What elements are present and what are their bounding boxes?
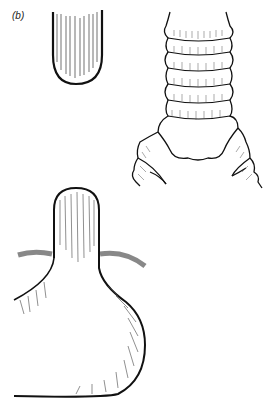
bulb-flask [14, 188, 145, 397]
ringed-bifurcation [132, 12, 262, 188]
tube-tip [53, 10, 102, 84]
illustration [0, 0, 275, 406]
